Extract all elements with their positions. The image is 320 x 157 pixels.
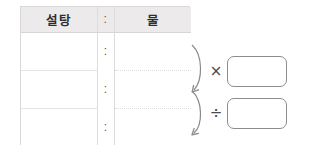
- curved-down-arrow-multiply: [192, 45, 201, 90]
- table-header: 설탕 : 물: [21, 7, 191, 32]
- header-cell-sugar: 설탕: [21, 7, 97, 32]
- header-row: 설탕 : 물: [21, 7, 191, 32]
- ratio-table: 설탕 : 물 : : :: [20, 6, 190, 145]
- ratio-table-grid: 설탕 : 물 : : :: [21, 7, 191, 145]
- cell-water-value[interactable]: [114, 70, 191, 108]
- header-cell-water: 물: [114, 7, 191, 32]
- cell-sugar-value[interactable]: [21, 70, 97, 108]
- table-row: :: [21, 70, 191, 108]
- table-row: :: [21, 32, 191, 70]
- curved-down-arrow-divide: [192, 91, 201, 133]
- table-body: : : :: [21, 32, 191, 145]
- answer-box-multiply[interactable]: [227, 56, 287, 87]
- cell-ratio-separator: :: [97, 70, 114, 108]
- divide-icon: ÷: [206, 106, 226, 121]
- cell-sugar-value[interactable]: [21, 32, 97, 70]
- header-cell-ratio-separator: :: [97, 7, 114, 32]
- cell-sugar-value[interactable]: [21, 108, 97, 145]
- cell-ratio-separator: :: [97, 32, 114, 70]
- cell-ratio-separator: :: [97, 108, 114, 145]
- cell-water-value[interactable]: [114, 32, 191, 70]
- cell-water-value[interactable]: [114, 108, 191, 145]
- multiply-icon: ×: [206, 64, 226, 79]
- answer-box-divide[interactable]: [227, 98, 287, 129]
- table-row: :: [21, 108, 191, 145]
